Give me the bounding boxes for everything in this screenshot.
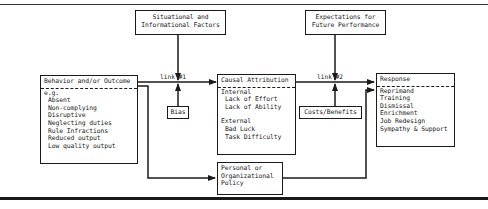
bias-box: Bias	[167, 106, 189, 119]
behavior-outcome-box: Behavior and/or Outcome e.g. Absent Non-…	[40, 75, 138, 164]
response-box: Response Reprimand Training Dismissal En…	[376, 73, 455, 147]
causal-attribution-box: Causal Attribution Internal Lack of Effo…	[217, 74, 296, 155]
link-1-label: link #1	[160, 73, 186, 80]
behavior-title: Behavior and/or Outcome	[41, 76, 137, 88]
causal-title: Causal Attribution	[218, 75, 295, 87]
response-title: Response	[377, 74, 454, 86]
link-2-label: link #2	[317, 73, 343, 80]
external-item: Task Difficulty	[221, 134, 292, 142]
behavior-item: Low quality output	[44, 143, 134, 151]
expectations-line-2: Future Performance	[306, 22, 385, 30]
policy-line-3: Policy	[221, 180, 279, 188]
situational-line-2: Informational Factors	[136, 22, 225, 30]
internal-item: Lack of Ability	[221, 104, 292, 112]
policy-box: Personal or Organizational Policy	[217, 162, 283, 195]
situational-factors-box: Situational and Informational Factors	[135, 10, 226, 35]
response-item: Sympathy & Support	[380, 126, 451, 134]
expectations-box: Expectations for Future Performance	[305, 10, 386, 35]
costs-benefits-box: Costs/Benefits	[299, 106, 362, 119]
bias-label: Bias	[168, 109, 188, 117]
costs-label: Costs/Benefits	[300, 109, 361, 117]
